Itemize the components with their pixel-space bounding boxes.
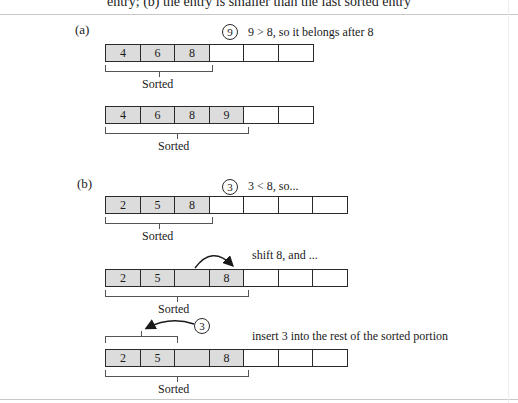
arrows-layer: [0, 0, 518, 403]
shift-arrow: [195, 256, 232, 268]
insert-arrow: [147, 321, 194, 328]
